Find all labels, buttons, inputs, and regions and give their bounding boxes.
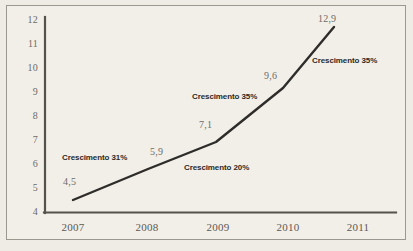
- data-label-2009: 7,1: [199, 119, 212, 130]
- y-tick-6: 6: [16, 158, 38, 169]
- data-label-2008: 5,9: [150, 146, 163, 157]
- y-tick-10: 10: [16, 62, 38, 73]
- data-label-2010: 9,6: [264, 70, 277, 81]
- data-label-2007: 4,5: [63, 176, 76, 187]
- x-tick-2009: 2009: [193, 221, 243, 233]
- annotation-growth-2007-2008: Crescimento 31%: [62, 153, 127, 162]
- y-tick-8: 8: [16, 110, 38, 121]
- y-tick-11: 11: [16, 38, 38, 49]
- y-tick-12: 12: [16, 14, 38, 25]
- annotation-growth-2010-2011: Crescimento 35%: [312, 56, 377, 65]
- y-tick-7: 7: [16, 134, 38, 145]
- annotation-growth-2008-2009: Crescimento 20%: [184, 163, 249, 172]
- x-tick-2008: 2008: [122, 221, 172, 233]
- data-label-2011: 12,9: [318, 13, 336, 24]
- x-tick-2010: 2010: [263, 221, 313, 233]
- data-line-series-1: [73, 27, 334, 200]
- y-tick-9: 9: [16, 86, 38, 97]
- chart-page: 12 11 10 9 8 7 6 5 4 2007 2008 2009 2010…: [0, 0, 413, 251]
- x-tick-2011: 2011: [333, 221, 383, 233]
- annotation-growth-2009-2010: Crescimento 35%: [192, 92, 257, 101]
- x-tick-2007: 2007: [48, 221, 98, 233]
- y-tick-4: 4: [16, 206, 38, 217]
- y-tick-5: 5: [16, 182, 38, 193]
